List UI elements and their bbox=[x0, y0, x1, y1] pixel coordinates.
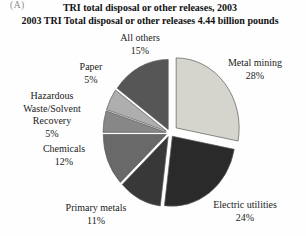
slice-percent: 5% bbox=[10, 128, 94, 141]
slice-label-electric-utilities: Electric utilities 24% bbox=[190, 198, 300, 224]
slice-name: Chemicals bbox=[29, 142, 99, 155]
slice-name: Electric utilities bbox=[190, 198, 300, 211]
slice-name: All others bbox=[98, 31, 182, 44]
figure: (A) TRI total disposal or other releases… bbox=[0, 0, 306, 236]
slice-percent: 11% bbox=[41, 214, 151, 227]
slice-percent: 24% bbox=[190, 211, 300, 224]
slice-percent: 15% bbox=[98, 44, 182, 57]
slice-percent: 12% bbox=[29, 155, 99, 168]
slice-name: Hazardous Waste/Solvent Recovery bbox=[10, 90, 94, 128]
slice-label-metal-mining: Metal mining 28% bbox=[209, 56, 301, 82]
slice-name: Paper bbox=[64, 60, 118, 73]
slice-name: Primary metals bbox=[41, 201, 151, 214]
slice-label-all-others: All others 15% bbox=[98, 31, 182, 57]
slice-label-primary-metals: Primary metals 11% bbox=[41, 201, 151, 227]
slice-label-paper: Paper 5% bbox=[64, 60, 118, 86]
slice-percent: 5% bbox=[64, 73, 118, 86]
slice-name: Metal mining bbox=[209, 56, 301, 69]
pie-slice-electric-utilities bbox=[164, 136, 234, 206]
slice-label-chemicals: Chemicals 12% bbox=[29, 142, 99, 168]
slice-label-hazardous-waste-solvent-recovery: Hazardous Waste/Solvent Recovery 5% bbox=[10, 90, 94, 140]
slice-percent: 28% bbox=[209, 69, 301, 82]
